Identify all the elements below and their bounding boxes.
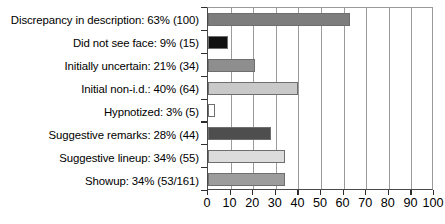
x-axis-tick-label: 90	[403, 197, 417, 210]
x-axis-tick	[388, 190, 389, 195]
bar	[208, 150, 285, 163]
gridline	[298, 8, 299, 189]
category-label: Suggestive remarks: 28% (44)	[49, 130, 199, 141]
x-axis-tick	[320, 190, 321, 195]
x-axis-tick	[365, 190, 366, 195]
x-axis-tick-label: 50	[313, 197, 327, 210]
bar	[208, 104, 215, 117]
x-axis-tick-label: 80	[381, 197, 395, 210]
x-axis-tick	[343, 190, 344, 195]
x-axis-tick-label: 100	[422, 197, 443, 210]
gridline	[411, 8, 412, 189]
x-axis-tick	[230, 190, 231, 195]
x-axis-tick-label: 40	[290, 197, 304, 210]
gridline	[366, 8, 367, 189]
bar	[208, 59, 255, 72]
category-label: Showup: 34% (53/161)	[85, 176, 199, 187]
category-label: Suggestive lineup: 34% (55)	[59, 153, 199, 164]
plot-area	[207, 7, 433, 190]
gridline	[321, 8, 322, 189]
gridline	[344, 8, 345, 189]
category-label: Discrepancy in description: 63% (100)	[11, 15, 199, 26]
gridline	[389, 8, 390, 189]
bar	[208, 127, 271, 140]
x-axis-tick-label: 0	[203, 197, 210, 210]
bar	[208, 36, 228, 49]
x-axis-tick-label: 60	[336, 197, 350, 210]
x-axis-tick-label: 70	[358, 197, 372, 210]
category-label: Did not see face: 9% (15)	[73, 38, 199, 49]
category-label: Hypnotized: 3% (5)	[104, 107, 199, 118]
bar	[208, 173, 285, 186]
x-axis-tick	[433, 190, 434, 195]
bar	[208, 82, 298, 95]
category-label: Initial non-i.d.: 40% (64)	[81, 84, 199, 95]
x-axis-tick	[297, 190, 298, 195]
x-axis-tick	[252, 190, 253, 195]
x-axis-tick	[410, 190, 411, 195]
x-axis-tick-label: 30	[268, 197, 282, 210]
x-axis-tick-labels: 0102030405060708090100	[207, 197, 433, 217]
x-axis-tick	[275, 190, 276, 195]
category-label-column: Discrepancy in description: 63% (100) Di…	[0, 0, 203, 190]
bar	[208, 13, 350, 26]
horizontal-bar-chart: Discrepancy in description: 63% (100) Di…	[0, 0, 445, 224]
category-label: Initially uncertain: 21% (34)	[65, 61, 200, 72]
x-axis-tick-label: 20	[245, 197, 259, 210]
x-axis-tick-label: 10	[223, 197, 237, 210]
x-axis-tick	[207, 190, 208, 195]
